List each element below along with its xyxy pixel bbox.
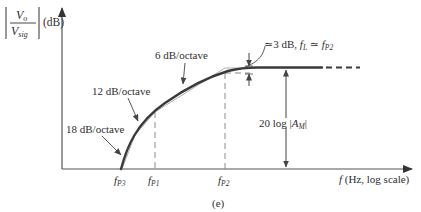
slope12-pointer	[128, 98, 138, 121]
y-axis-label: Vo Vsig (dB)	[6, 7, 64, 39]
bode-diagram: Vo Vsig (dB) 6 dB/octave 12 dB/octave 18…	[0, 0, 421, 212]
minus3db-label: ≃3 dB, fL ≃ fP2	[264, 38, 333, 52]
svg-text:(dB): (dB)	[43, 16, 64, 29]
asymptote-lines	[122, 68, 250, 169]
minus3db-leader	[240, 46, 265, 69]
svg-text:Vsig: Vsig	[11, 24, 28, 39]
slope-6db-label: 6 dB/octave	[155, 49, 208, 61]
slope6-pointer	[183, 63, 185, 84]
figure-caption: (e)	[212, 197, 225, 210]
x-axis-label: f (Hz, log scale)	[339, 173, 410, 186]
tick-fp3: fP3	[114, 174, 126, 188]
slope18-pointer	[102, 136, 121, 155]
slope-12db-label: 12 dB/octave	[92, 85, 150, 97]
slope-18db-label: 18 dB/octave	[66, 123, 124, 135]
tick-fp2: fP2	[218, 174, 230, 188]
midband-gain-label: 20 log |AM|	[259, 117, 307, 131]
tick-fp1: fP1	[148, 174, 159, 188]
svg-text:Vo: Vo	[16, 8, 27, 23]
